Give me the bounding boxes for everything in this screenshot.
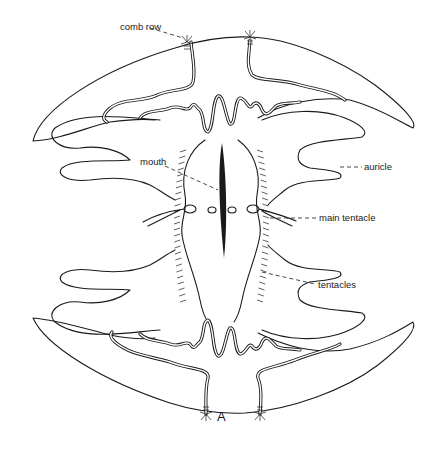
tentacle-hair [262,192,268,194]
tentacle-hair [174,222,180,224]
tentacle-hair [179,162,185,164]
left-tentacle-bulb [184,205,196,213]
tentacle-hair [179,294,185,296]
tentacle-hair [257,300,263,302]
mouth-slit [219,143,226,258]
tentacle-hair [258,156,264,158]
tentacle-hair [175,198,181,200]
tentacle-hair [179,288,185,290]
tentacle-hair [261,264,267,266]
tentacle-hair [178,168,184,170]
ctenophore-diagram: comb row mouth auricle main tentacle ten… [0,0,443,469]
tentacles-label: tentacles [318,279,356,290]
tentacle-hair [180,150,186,152]
tentacle-hair [262,198,268,200]
tentacle-hair [174,228,180,230]
tentacle-hair [258,162,264,164]
tentacle-hair [175,258,181,260]
figure-letter: A [217,409,226,424]
tentacle-hair [174,216,180,218]
tentacle-hair [258,294,264,296]
right-main-tentacle [259,209,296,226]
tentacle-hair [174,234,180,236]
tentacle-hair [259,168,265,170]
left-inner-bulb [208,207,216,213]
tentacle-hair [179,156,185,158]
lower-oral-lobe [33,318,414,413]
comb-row-label: comb row [120,21,161,32]
tentacle-hair [257,150,263,152]
lower-canals [111,320,340,414]
right-lower-auricle-lobe [262,245,365,339]
tentacle-hair [258,288,264,290]
tentacle-hair [260,174,266,176]
tentacle-hair [263,228,269,230]
tentacle-hair [262,252,268,254]
tentacle-hair [263,240,269,242]
main-tentacle-label: main tentacle [319,212,376,223]
pharynx-outline-right [234,140,260,322]
upper-canals [104,40,345,132]
tentacle-hair [177,276,183,278]
tentacle-hair [261,270,267,272]
tentacle-hair [262,258,268,260]
right-inner-bulb [228,207,236,213]
tentacle-hair [261,186,267,188]
tentacle-hair [261,180,267,182]
right-upper-auricle-lobe [262,111,365,205]
tentacle-hair [175,204,181,206]
tentacle-hair [263,222,269,224]
mouth-label: mouth [140,156,166,167]
tentacle-hair [175,252,181,254]
auricle-label: auricle [364,161,392,172]
tentacle-hair [180,300,186,302]
tentacle-hair [263,216,269,218]
tentacle-hair [176,186,182,188]
tentacle-hair [176,264,182,266]
tentacles-leader [262,272,315,284]
tentacle-hair [176,180,182,182]
mouth-leader [165,166,218,190]
tentacle-hair [262,246,268,248]
tentacle-hair [263,234,269,236]
tentacle-hair [178,282,184,284]
left-lower-auricle-lobe [52,250,175,334]
tentacle-hair [175,246,181,248]
pharynx-outline-left [182,140,208,322]
tentacle-hair [175,192,181,194]
tentacle-hair [259,282,265,284]
upper-oral-lobe [33,37,414,141]
tentacle-hair [174,240,180,242]
tentacle-hair [176,270,182,272]
left-main-tentacle [143,209,184,226]
tentacle-hair [177,174,183,176]
tentacle-hair [260,276,266,278]
